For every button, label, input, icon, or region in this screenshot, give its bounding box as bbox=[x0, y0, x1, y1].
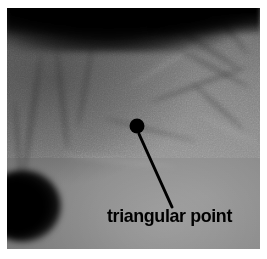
triangular-point-marker bbox=[130, 119, 145, 134]
leader-line bbox=[139, 134, 172, 207]
figure-root: triangular point bbox=[0, 0, 267, 259]
annotation-label: triangular point bbox=[107, 206, 232, 225]
